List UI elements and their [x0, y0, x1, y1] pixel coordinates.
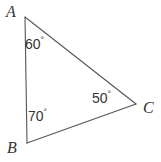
degree-symbol-c: °	[108, 89, 112, 99]
degree-symbol-a: °	[41, 35, 45, 45]
triangle-figure: A B C 60° 70° 50°	[0, 0, 161, 162]
triangle-svg	[0, 0, 161, 162]
vertex-label-a: A	[6, 4, 16, 20]
degree-symbol-b: °	[44, 107, 48, 117]
vertex-label-b: B	[7, 140, 17, 156]
angle-value-b: 70	[28, 108, 44, 124]
angle-label-a: 60°	[25, 37, 44, 51]
edge-AC-line	[25, 17, 136, 104]
angle-label-b: 70°	[28, 109, 47, 123]
vertex-label-c: C	[143, 100, 154, 116]
angle-value-a: 60	[25, 36, 41, 52]
angle-label-c: 50°	[92, 91, 111, 105]
angle-value-c: 50	[92, 90, 108, 106]
